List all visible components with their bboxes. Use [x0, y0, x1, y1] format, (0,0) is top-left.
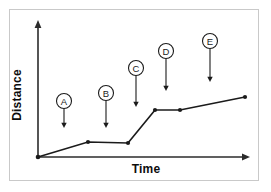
x-axis-arrowhead — [242, 154, 250, 161]
data-point — [86, 140, 90, 144]
callout-a-label: A — [61, 96, 68, 107]
callout-d-arrowhead — [163, 86, 168, 91]
callout-a-arrowhead — [61, 123, 66, 128]
callout-d-label: D — [163, 46, 170, 57]
callout-c: C — [129, 61, 144, 108]
distance-time-graph-figure: ABCDE Time Distance — [0, 0, 271, 192]
callout-d: D — [159, 44, 174, 92]
y-axis-title: Distance — [10, 69, 24, 121]
callout-b-arrowhead — [103, 123, 108, 128]
callout-c-label: C — [133, 63, 140, 74]
callout-c-arrowhead — [133, 102, 138, 107]
callout-annotations-group: ABCDE — [57, 34, 218, 129]
data-point — [243, 95, 247, 99]
callout-e: E — [203, 34, 218, 83]
callout-e-label: E — [207, 36, 213, 47]
callout-e-arrowhead — [207, 77, 212, 82]
data-point — [153, 108, 157, 112]
x-axis-title: Time — [132, 162, 161, 176]
callout-a: A — [57, 94, 72, 129]
callout-b-label: B — [103, 88, 109, 99]
origin-point — [36, 155, 41, 160]
data-point — [126, 141, 130, 145]
data-point — [178, 108, 182, 112]
chart-canvas: ABCDE Time Distance — [0, 0, 271, 192]
y-axis-arrowhead — [35, 20, 42, 28]
callout-b: B — [99, 86, 114, 129]
